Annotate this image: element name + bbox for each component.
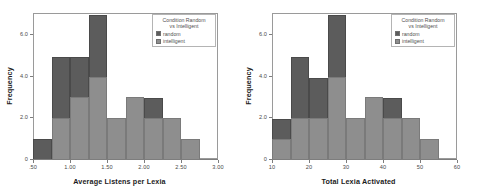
- bar-segment-intelligent: [420, 139, 439, 160]
- histogram-bar: [181, 138, 200, 159]
- bar-segment-random: [272, 119, 291, 140]
- bar-segment-random: [89, 15, 108, 78]
- x-axis-tick-label: 3.00: [212, 164, 223, 170]
- x-axis-tick: [457, 160, 458, 163]
- bar-segment-random: [328, 15, 347, 78]
- x-axis-tick: [218, 160, 219, 163]
- bar-segment-intelligent: [144, 118, 163, 160]
- x-axis-line: [33, 159, 218, 160]
- bar-segment-random: [70, 57, 89, 99]
- histogram-bar: [309, 76, 328, 159]
- y-axis-tick-label: 4.0: [259, 73, 267, 79]
- legend-title-line2: vs Intelligent: [156, 23, 212, 29]
- x-axis-tick: [272, 160, 273, 163]
- chart-panel-total-lexia: 10203040506002.04.06.0 Total Lexia Activ…: [239, 0, 478, 194]
- legend-swatch-random-icon: [156, 31, 161, 36]
- x-axis-title-left: Average Listens per Lexia: [0, 177, 239, 186]
- legend-item-random: random: [395, 31, 451, 37]
- y-axis-tick-label: 2.0: [259, 114, 267, 120]
- x-axis-tick-label: 40: [380, 164, 386, 170]
- legend-label-intelligent: intelligent: [402, 38, 424, 44]
- legend-label-random: random: [163, 31, 181, 37]
- legend-item-random: random: [156, 31, 212, 37]
- x-axis-tick-label: 1.50: [101, 164, 112, 170]
- y-axis-tick-label: 0: [25, 156, 28, 162]
- x-axis-tick: [181, 160, 182, 163]
- x-axis-tick: [346, 160, 347, 163]
- y-axis-title-right: Frequency: [244, 67, 253, 105]
- bar-segment-intelligent: [383, 118, 402, 160]
- x-axis-tick: [309, 160, 310, 163]
- y-axis-tick: [269, 34, 272, 35]
- y-axis-tick: [30, 76, 33, 77]
- bar-segment-intelligent: [89, 77, 108, 160]
- histogram-bar: [383, 96, 402, 159]
- x-axis-tick-label: 20: [306, 164, 312, 170]
- y-axis-tick: [30, 159, 33, 160]
- legend-swatch-random-icon: [395, 31, 400, 36]
- y-axis-tick-label: 6.0: [259, 31, 267, 37]
- y-axis-tick-label: 4.0: [20, 73, 28, 79]
- y-axis-tick: [269, 117, 272, 118]
- x-axis-tick-label: 1.00: [64, 164, 75, 170]
- histogram-bar: [402, 117, 421, 159]
- bar-segment-random: [144, 98, 163, 119]
- bar-segment-random: [383, 98, 402, 119]
- bar-segment-intelligent: [107, 118, 126, 160]
- bar-segment-intelligent: [291, 118, 310, 160]
- bar-segment-intelligent: [365, 97, 384, 160]
- x-axis-tick: [144, 160, 145, 163]
- y-axis-tick-label: 0: [264, 156, 267, 162]
- histogram-bar: [272, 117, 291, 159]
- bar-segment-intelligent: [126, 97, 145, 160]
- legend-label-random: random: [402, 31, 420, 37]
- x-axis-tick-label: 10: [269, 164, 275, 170]
- legend-item-intelligent: intelligent: [395, 38, 451, 44]
- histogram-bar: [163, 117, 182, 159]
- x-axis-tick-label: 30: [343, 164, 349, 170]
- histogram-bar: [346, 117, 365, 159]
- legend-title-line2: vs Intelligent: [395, 23, 451, 29]
- histogram-bar: [52, 55, 71, 159]
- legend-item-intelligent: intelligent: [156, 38, 212, 44]
- x-axis-tick-label: .50: [29, 164, 37, 170]
- legend-label-intelligent: intelligent: [163, 38, 185, 44]
- y-axis-tick-label: 6.0: [20, 31, 28, 37]
- bar-segment-random: [33, 139, 52, 160]
- histogram-bar: [107, 117, 126, 159]
- legend-left: Condition Random vs Intelligent random i…: [152, 14, 216, 47]
- histogram-bar: [33, 138, 52, 159]
- bar-segment-intelligent: [346, 118, 365, 160]
- legend-right: Condition Random vs Intelligent random i…: [391, 14, 455, 47]
- y-axis-title-left: Frequency: [5, 67, 14, 105]
- y-axis-tick: [269, 159, 272, 160]
- histogram-bar: [89, 13, 108, 159]
- histogram-bar: [70, 55, 89, 159]
- x-axis-tick-label: 2.50: [175, 164, 186, 170]
- legend-swatch-intelligent-icon: [395, 39, 400, 44]
- bar-segment-intelligent: [52, 118, 71, 160]
- histogram-bar: [126, 96, 145, 159]
- y-axis-tick: [30, 117, 33, 118]
- histogram-bar: [144, 96, 163, 159]
- x-axis-tick-label: 50: [417, 164, 423, 170]
- bar-segment-intelligent: [272, 139, 291, 160]
- histogram-figure: .501.001.502.002.503.0002.04.06.0 Averag…: [0, 0, 478, 194]
- x-axis-line: [272, 159, 457, 160]
- y-axis-tick: [30, 34, 33, 35]
- bar-segment-intelligent: [328, 77, 347, 160]
- bar-segment-intelligent: [181, 139, 200, 160]
- bar-segment-intelligent: [70, 97, 89, 160]
- x-axis-title-right: Total Lexia Activated: [239, 177, 478, 186]
- bar-segment-intelligent: [402, 118, 421, 160]
- x-axis-tick: [33, 160, 34, 163]
- y-axis-tick: [269, 76, 272, 77]
- histogram-bar: [365, 96, 384, 159]
- x-axis-tick-label: 2.00: [138, 164, 149, 170]
- histogram-bar: [420, 138, 439, 159]
- x-axis-tick: [107, 160, 108, 163]
- bar-segment-intelligent: [163, 118, 182, 160]
- x-axis-tick: [420, 160, 421, 163]
- bar-segment-random: [309, 78, 328, 120]
- chart-panel-average-listens: .501.001.502.002.503.0002.04.06.0 Averag…: [0, 0, 239, 194]
